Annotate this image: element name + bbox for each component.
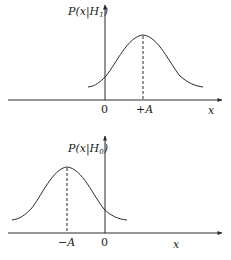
bottom-peak-label: −A [58,236,75,249]
top-y-axis-label: P(x|H1) [67,5,108,19]
top-plot: P(x|H1) 0 +A x [8,5,222,117]
top-origin-label: 0 [101,103,108,116]
bottom-x-axis-label: x [173,238,180,251]
diagram-canvas: P(x|H1) 0 +A x P(x|H0) −A 0 x [0,0,231,260]
bottom-y-axis-label: P(x|H0) [67,142,108,156]
bottom-plot: P(x|H0) −A 0 x [8,136,222,251]
top-peak-label: +A [136,103,153,116]
bottom-origin-label: 0 [101,236,108,249]
top-x-axis-label: x [208,104,215,117]
bottom-gaussian-curve [12,167,127,220]
